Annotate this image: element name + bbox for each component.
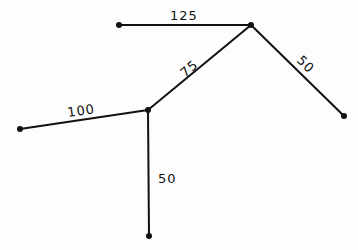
edge-b-c — [251, 25, 344, 116]
node-c — [341, 113, 347, 119]
node-d — [145, 107, 151, 113]
weight-label-b-c: 50 — [294, 53, 318, 77]
diagram-svg: 125 50 75 100 50 — [0, 0, 358, 250]
weight-label-e-d: 100 — [66, 101, 96, 120]
weight-label-a-b: 125 — [170, 8, 198, 23]
node-e — [17, 126, 23, 132]
tree-diagram: 125 50 75 100 50 — [0, 0, 358, 250]
node-b — [248, 22, 254, 28]
node-f — [146, 233, 152, 239]
weight-label-d-f: 50 — [158, 171, 177, 186]
edge-d-f — [148, 110, 149, 236]
weight-label-d-b: 75 — [177, 57, 201, 80]
node-a — [116, 22, 122, 28]
